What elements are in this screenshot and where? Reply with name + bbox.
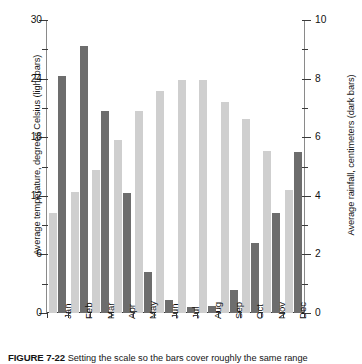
right-tick-label: 8: [315, 73, 355, 84]
x-axis-label-apr: Apr: [126, 304, 137, 319]
bar-group: [156, 20, 174, 313]
x-axis-label-mar: Mar: [105, 302, 116, 319]
x-axis-tick: [133, 313, 134, 318]
x-axis-tick: [304, 313, 305, 318]
plot-area: 0612182430 0246810 JanFebMarAprMayJunJul…: [47, 20, 304, 313]
left-axis-title: Average temperature, degrees Celsius (li…: [32, 30, 42, 280]
right-tick-label: 0: [315, 307, 355, 318]
x-axis-label-may: May: [147, 301, 158, 319]
bar-group: [178, 20, 196, 313]
temperature-bar: [285, 190, 293, 313]
x-axis-label-jul: Jul: [190, 307, 201, 319]
x-axis-tick: [176, 313, 177, 318]
x-axis-label-jan: Jan: [62, 304, 73, 319]
left-tick-label: 18: [2, 131, 42, 142]
rainfall-bar: [251, 243, 259, 313]
temperature-bar: [92, 170, 100, 313]
temperature-bar: [242, 119, 250, 313]
caption-number: FIGURE 7-22: [8, 352, 65, 363]
bar-group: [92, 20, 110, 313]
bar-group: [199, 20, 217, 313]
x-axis-label-feb: Feb: [83, 302, 94, 319]
right-major-tick: [302, 196, 311, 197]
right-axis-title: Average rainfall, centimeters (dark bars…: [346, 30, 356, 280]
temperature-bar: [178, 80, 186, 313]
x-axis-tick: [283, 313, 284, 318]
rainfall-bar: [123, 193, 131, 313]
right-major-tick: [302, 254, 311, 255]
left-tick-label: 0: [2, 307, 42, 318]
right-major-tick: [302, 79, 311, 80]
bar-group: [49, 20, 67, 313]
right-major-tick: [302, 137, 311, 138]
temperature-bar: [199, 80, 207, 313]
caption-text: Setting the scale so the bars cover roug…: [68, 353, 308, 363]
x-axis-label-sep: Sep: [233, 302, 244, 319]
right-tick-label: 6: [315, 131, 355, 142]
left-minor-tick: [42, 225, 48, 226]
temperature-bar: [263, 151, 271, 313]
x-axis-tick: [197, 313, 198, 318]
temperature-bar: [135, 111, 143, 313]
bar-group: [71, 20, 89, 313]
bar-group: [221, 20, 239, 313]
x-axis-tick: [240, 313, 241, 318]
left-minor-tick: [42, 49, 48, 50]
temperature-bar: [49, 213, 57, 313]
left-minor-tick: [42, 108, 48, 109]
temperature-bar: [156, 91, 164, 313]
right-tick-label: 10: [315, 14, 355, 25]
x-axis-tick: [68, 313, 69, 318]
temperature-bar: [71, 192, 79, 313]
right-minor-tick: [302, 108, 308, 109]
right-minor-tick: [302, 49, 308, 50]
x-axis-tick: [261, 313, 262, 318]
rainfall-bar: [272, 213, 280, 313]
rainfall-bar: [101, 111, 109, 313]
right-minor-tick: [302, 167, 308, 168]
right-tick-label: 4: [315, 190, 355, 201]
figure-caption: FIGURE 7-22 Setting the scale so the bar…: [8, 352, 360, 364]
x-axis-label-nov: Nov: [276, 302, 287, 319]
temperature-bar: [114, 140, 122, 313]
left-tick-label: 24: [2, 73, 42, 84]
left-tick-label: 12: [2, 190, 42, 201]
bar-group: [242, 20, 260, 313]
left-minor-tick: [42, 167, 48, 168]
x-axis-label-dec: Dec: [297, 302, 308, 319]
x-axis-tick: [111, 313, 112, 318]
bar-group: [285, 20, 303, 313]
left-tick-label: 30: [2, 14, 42, 25]
x-axis-tick: [218, 313, 219, 318]
x-axis-tick: [90, 313, 91, 318]
bar-group: [263, 20, 281, 313]
right-minor-tick: [302, 225, 308, 226]
rainfall-bar: [58, 76, 66, 313]
x-axis-tick: [154, 313, 155, 318]
right-minor-tick: [302, 284, 308, 285]
rainfall-bar: [294, 152, 302, 313]
bar-group: [114, 20, 132, 313]
x-axis-label-jun: Jun: [169, 304, 180, 319]
rainfall-bar: [80, 46, 88, 313]
left-tick-label: 6: [2, 248, 42, 259]
x-axis-label-aug: Aug: [212, 302, 223, 319]
right-tick-label: 2: [315, 248, 355, 259]
x-axis-tick: [47, 313, 48, 318]
x-axis-label-oct: Oct: [254, 304, 265, 319]
figure-container: Average temperature, degrees Celsius (li…: [0, 0, 362, 364]
temperature-bar: [221, 102, 229, 313]
bar-group: [135, 20, 153, 313]
left-minor-tick: [42, 284, 48, 285]
right-major-tick: [302, 20, 311, 21]
